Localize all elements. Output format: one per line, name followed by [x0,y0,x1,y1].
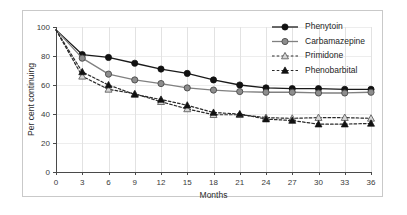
legend-label-1: Carbamazepine [305,36,365,46]
data-point-marker [79,55,85,61]
data-point-marker [210,87,216,93]
x-tick-label: 3 [80,178,85,187]
data-point-marker [184,85,190,91]
data-point-marker [368,89,374,95]
data-point-marker [105,71,111,77]
data-point-marker [263,89,269,95]
data-point-marker [289,89,295,95]
legend-marker-gray-circle [282,38,288,44]
y-tick-label: 0 [46,168,51,177]
chart-figure: 020406080100 0369121518212427303336 Per … [0,0,407,215]
x-tick-label: 0 [54,178,59,187]
legend-label-0: Phenytoin [305,21,343,31]
data-point-marker [315,90,321,96]
data-point-marker [237,82,243,88]
y-tick-label: 40 [41,110,50,119]
y-tick-label: 60 [41,81,50,90]
x-tick-label: 12 [157,178,166,187]
data-point-marker [184,70,190,76]
x-tick-label: 30 [314,178,323,187]
x-tick-label: 24 [262,178,271,187]
data-point-marker [237,88,243,94]
chart-legend: PhenytoinCarbamazepinePrimidonePhenobarb… [272,21,365,75]
x-tick-label: 36 [367,178,376,187]
x-tick-label: 9 [133,178,138,187]
data-point-marker [342,90,348,96]
data-point-marker [105,54,111,60]
chart-axes [56,27,371,173]
y-axis-title: Per cent continuing [26,63,36,136]
data-point-marker [210,77,216,83]
x-axis-tick-labels: 0369121518212427303336 [54,178,376,187]
data-point-marker [158,66,164,72]
data-point-marker [105,81,112,87]
y-tick-label: 100 [37,23,51,32]
x-tick-label: 15 [183,178,192,187]
y-tick-label: 20 [41,139,50,148]
x-tick-label: 21 [235,178,244,187]
x-tick-label: 18 [209,178,218,187]
data-point-marker [158,80,164,86]
legend-marker-filled-circle [282,24,288,30]
legend-label-3: Phenobarbital [305,65,358,75]
y-tick-label: 80 [41,52,50,61]
data-point-marker [132,60,138,66]
x-axis-title: Months [200,190,228,200]
legend-label-2: Primidone [305,50,344,60]
x-tick-label: 33 [340,178,349,187]
y-axis-tick-labels: 020406080100 [37,23,51,177]
data-point-marker [132,77,138,83]
line-chart: 020406080100 0369121518212427303336 Per … [0,0,407,215]
x-tick-label: 27 [288,178,297,187]
vertical-gridlines [83,27,372,172]
x-tick-label: 6 [106,178,111,187]
